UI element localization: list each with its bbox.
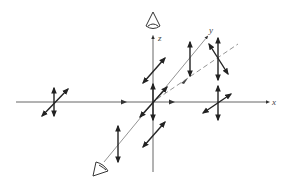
eye-front-icon [93,162,108,176]
y-axis: y [104,25,213,162]
polarization-right-x [203,86,231,120]
z-axis: z [153,33,162,172]
eye-top-icon [146,12,160,29]
polarization-upper-right [209,38,228,80]
polarization-upper-z [143,58,165,83]
z-axis-label: z [157,33,162,43]
y-axis-label: y [208,25,213,35]
x-axis-label: x [271,97,276,107]
polarization-lower-z [143,122,165,147]
polarization-diagram: x z y [0,0,290,187]
